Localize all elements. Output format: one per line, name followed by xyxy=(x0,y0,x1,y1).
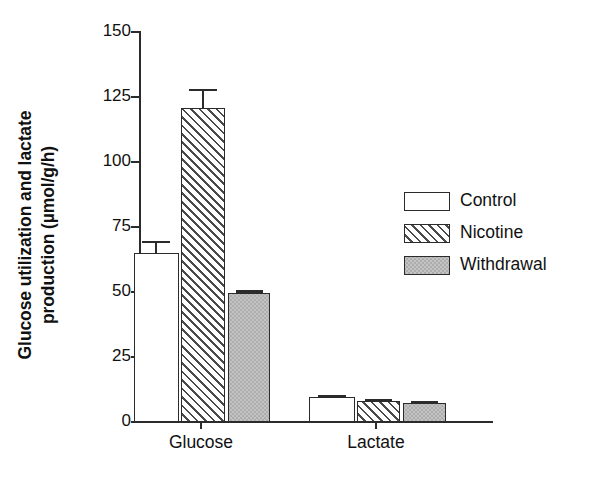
x-tick-glucose xyxy=(200,421,202,429)
bar-glucose-control xyxy=(134,253,179,422)
legend-swatch-control xyxy=(404,192,450,211)
y-tick-75 xyxy=(131,226,140,228)
error-bar-lactate-nicotine-cap xyxy=(365,399,392,402)
y-tick-label-25: 25 xyxy=(71,347,131,364)
legend-item-withdrawal: Withdrawal xyxy=(404,252,584,284)
legend-label-withdrawal: Withdrawal xyxy=(460,254,547,275)
error-bar-glucose-nicotine-stem xyxy=(202,89,204,109)
legend-item-nicotine: Nicotine xyxy=(404,220,584,252)
bar-lactate-withdrawal xyxy=(403,403,446,422)
legend-swatch-withdrawal xyxy=(404,256,450,275)
error-bar-lactate-withdrawal-cap xyxy=(411,401,438,404)
y-tick-125 xyxy=(131,96,140,98)
legend-label-nicotine: Nicotine xyxy=(460,222,523,243)
y-axis-title-line1: Glucose utilization and lactate xyxy=(15,111,35,360)
error-bar-glucose-control-cap xyxy=(142,241,170,243)
y-axis-title: Glucose utilization and lactate producti… xyxy=(14,35,60,435)
legend-swatch-nicotine xyxy=(404,224,450,243)
error-bar-lactate-control-cap xyxy=(318,395,346,398)
legend: Control Nicotine Withdrawal xyxy=(404,188,584,284)
bar-glucose-withdrawal xyxy=(228,293,270,422)
bar-chart-figure: Glucose utilization and lactate producti… xyxy=(0,0,592,477)
y-tick-label-75: 75 xyxy=(71,217,131,234)
y-tick-150 xyxy=(131,31,140,33)
y-tick-label-125: 125 xyxy=(71,87,131,104)
x-category-label-lactate: Lactate xyxy=(306,432,446,453)
y-tick-label-50: 50 xyxy=(71,282,131,299)
y-tick-100 xyxy=(131,161,140,163)
bar-lactate-control xyxy=(309,397,355,422)
y-tick-label-100: 100 xyxy=(71,152,131,169)
y-axis-title-line2: production (µmol/g/h) xyxy=(37,35,60,435)
x-tick-lactate xyxy=(375,421,377,429)
error-bar-glucose-nicotine-cap xyxy=(189,89,217,91)
legend-item-control: Control xyxy=(404,188,584,220)
y-tick-label-0: 0 xyxy=(71,412,131,429)
bar-glucose-nicotine xyxy=(181,108,225,422)
error-bar-glucose-withdrawal-cap xyxy=(236,290,263,293)
legend-label-control: Control xyxy=(460,190,516,211)
bar-lactate-nicotine xyxy=(357,401,400,422)
y-tick-label-150: 150 xyxy=(71,22,131,39)
x-category-label-glucose: Glucose xyxy=(131,432,271,453)
